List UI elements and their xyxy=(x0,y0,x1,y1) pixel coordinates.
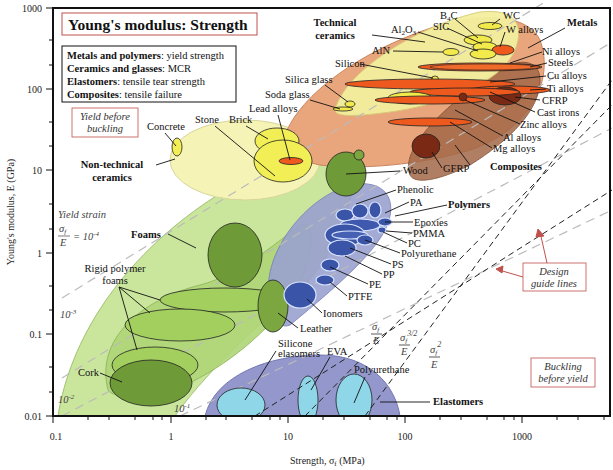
label-eva: EVA xyxy=(327,346,348,357)
guide-label-1-num: σf xyxy=(372,321,380,334)
yield-strain-sigma: σf xyxy=(59,223,67,236)
guide-label-15-den: E xyxy=(400,346,408,357)
x-tick-100: 100 xyxy=(398,431,413,442)
label-composites: Composites xyxy=(490,161,542,172)
bubble-silica-glass xyxy=(345,101,355,107)
bubble-wood-small xyxy=(354,150,364,160)
x-tick-10: 10 xyxy=(283,431,293,442)
yield-before-buckling-text-2: buckling xyxy=(87,123,123,134)
guide-label-1-den: E xyxy=(372,335,380,346)
label-al-alloys: Al alloys xyxy=(503,132,541,143)
label-non-technical-ceramics-2: ceramics xyxy=(92,172,132,183)
label-rigid-polymer-foams: Rigid polymer xyxy=(85,263,146,274)
label-pu-elastomer: Polyurethane xyxy=(354,364,410,375)
design-guide-lines-text-2: guide lines xyxy=(531,278,577,289)
chart-title: Young's modulus: Strength xyxy=(68,16,248,33)
label-brick: Brick xyxy=(229,114,253,125)
label-technical-ceramics-2: ceramics xyxy=(315,30,355,41)
label-technical-ceramics: Technical xyxy=(314,17,357,28)
yield-strain-value: = 10-4 xyxy=(73,230,100,242)
bubble-concrete xyxy=(172,138,182,156)
label-ionomers: Ionomers xyxy=(323,308,363,319)
label-ti-alloys: Ti alloys xyxy=(547,83,584,94)
label-phenolic: Phenolic xyxy=(397,184,434,195)
label-cu-alloys: Cu alloys xyxy=(547,70,587,81)
label-soda-glass: Soda glass xyxy=(265,89,310,100)
label-ptfe: PTFE xyxy=(348,291,373,302)
label-w-alloys: W alloys xyxy=(506,24,543,35)
legend-line-2: Ceramics and glasses: MCR xyxy=(67,63,191,74)
bubble-cork xyxy=(110,360,192,406)
bubble-steels xyxy=(430,64,540,70)
label-leather: Leather xyxy=(300,323,333,334)
bubble-cfrp-small xyxy=(459,93,467,101)
label-cork: Cork xyxy=(78,367,100,378)
bubble-rigid-foam-2 xyxy=(125,309,235,341)
label-rigid-polymer-foams-2: foams xyxy=(102,275,128,286)
label-steels: Steels xyxy=(548,57,573,68)
bubble-al-alloys xyxy=(388,118,472,126)
y-tick-0.1: 0.1 xyxy=(30,329,43,340)
label-ni-alloys: Ni alloys xyxy=(542,46,580,57)
label-silicone-2: elasomers xyxy=(278,348,320,359)
yield-strain-E: E xyxy=(59,237,67,248)
bubble-wc xyxy=(478,23,502,30)
label-sic: SIC xyxy=(433,21,449,32)
label-pe: PE xyxy=(369,279,381,290)
label-concrete: Concrete xyxy=(147,121,185,132)
label-pa: PA xyxy=(410,197,423,208)
label-zinc-alloys: Zinc alloys xyxy=(520,119,567,130)
label-mg-alloys: Mg alloys xyxy=(493,143,535,154)
y-axis-label: Young's modulus, E (GPa) xyxy=(5,159,17,265)
buckling-before-yield-text-2: before yield xyxy=(538,373,588,384)
label-lead-alloys: Lead alloys xyxy=(249,103,298,114)
label-stone: Stone xyxy=(195,114,219,125)
y-tick-100: 100 xyxy=(27,84,42,95)
bubble-leather xyxy=(258,280,288,332)
ashby-chart: 1000 100 10 1 0.1 0.01 0.1 1 10 100 1000… xyxy=(0,0,613,470)
label-cast-irons: Cast irons xyxy=(537,107,579,118)
label-silica-glass: Silica glass xyxy=(285,74,333,85)
legend-line-3: Elastomers: tensile tear strength xyxy=(67,76,206,87)
label-silicon: Silicon xyxy=(335,58,366,69)
legend-line-1: Metals and polymers: yield strength xyxy=(67,50,225,61)
x-tick-1: 1 xyxy=(169,431,174,442)
bubble-foams xyxy=(208,223,262,287)
buckling-before-yield-text: Buckling xyxy=(544,361,581,372)
label-epoxies: Epoxies xyxy=(414,217,448,228)
bubble-lead-alloys xyxy=(279,158,303,165)
yield-before-buckling-text: Yield before xyxy=(80,111,130,122)
x-tick-0.1: 0.1 xyxy=(50,431,63,442)
yield-strain-label: Yield strain xyxy=(58,209,106,220)
bubble-zinc-alloys xyxy=(375,96,485,104)
y-tick-10: 10 xyxy=(32,165,42,176)
legend-line-4: Composites: tensile failure xyxy=(67,89,182,100)
guide-label-2-den: E xyxy=(430,359,438,370)
label-non-technical-ceramics: Non-technical xyxy=(81,159,143,170)
label-al2o3: Al2O3 xyxy=(391,24,417,37)
label-elastomers: Elastomers xyxy=(433,396,483,407)
design-guide-lines-text: Design xyxy=(538,266,569,277)
label-wc: WC xyxy=(503,10,520,21)
guide-label-2-num: σf2 xyxy=(430,340,441,357)
bubble-al2o3 xyxy=(470,49,496,59)
label-gfrp: GFRP xyxy=(443,163,469,174)
label-foams: Foams xyxy=(131,229,161,240)
label-pp: PP xyxy=(383,269,395,280)
strain-label-1e-3: 10-3 xyxy=(60,308,77,320)
x-tick-1000: 1000 xyxy=(512,431,532,442)
label-polyurethane: Polyurethane xyxy=(401,248,457,259)
label-polymers: Polymers xyxy=(448,199,490,210)
label-aln: AlN xyxy=(372,45,391,56)
label-metals: Metals xyxy=(567,17,597,28)
y-tick-1: 1 xyxy=(37,248,42,259)
y-tick-1000: 1000 xyxy=(22,3,42,14)
guide-label-15-num: σf3/2 xyxy=(400,329,417,345)
label-wood: Wood xyxy=(403,165,429,176)
y-tick-0.01: 0.01 xyxy=(25,411,43,422)
bubble-aln xyxy=(443,49,459,56)
bubble-gfrp xyxy=(412,134,440,158)
label-cfrp: CFRP xyxy=(542,95,568,106)
